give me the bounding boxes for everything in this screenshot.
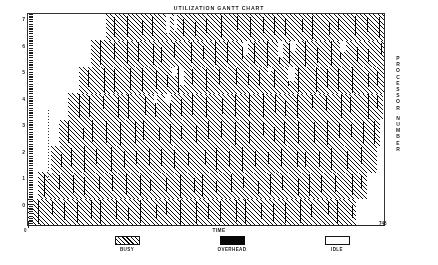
overhead-bar: [92, 120, 93, 142]
overhead-bar: [142, 20, 143, 35]
overhead-bar: [222, 98, 223, 114]
overhead-bar: [120, 122, 121, 145]
overhead-bar: [79, 94, 80, 118]
overhead-bar: [368, 49, 369, 61]
idle-notch: [268, 67, 271, 75]
overhead-bar: [259, 70, 260, 85]
overhead-bar: [352, 205, 353, 219]
legend-swatch-busy: [115, 236, 140, 245]
idle-notch: [154, 93, 157, 103]
chart-title: UTILIZATION GANTT CHART: [0, 5, 438, 11]
busy-block-p2: [51, 146, 377, 173]
idle-notch: [174, 14, 177, 31]
overhead-bar: [91, 200, 92, 218]
overhead-bar: [140, 175, 141, 196]
busy-block-p4: [68, 93, 383, 120]
overhead-bar: [128, 94, 129, 118]
overhead-bar: [368, 73, 369, 87]
overhead-bar: [180, 200, 181, 225]
idle-notch: [290, 40, 296, 51]
overhead-bar: [174, 150, 175, 167]
legend-label: IDLE: [297, 247, 377, 252]
overhead-bar: [150, 179, 151, 191]
overhead-bar: [335, 175, 336, 192]
overhead-bar: [248, 73, 249, 85]
overhead-bar: [250, 17, 251, 37]
overhead-bar: [111, 147, 112, 171]
overhead-bar: [166, 178, 167, 192]
overhead-bar: [118, 97, 119, 117]
overhead-bar: [352, 174, 353, 196]
overhead-bar: [274, 127, 275, 142]
overhead-bar: [135, 121, 136, 144]
overhead-bar: [331, 41, 332, 66]
overhead-bar: [84, 177, 85, 195]
overhead-bar: [44, 175, 45, 197]
overhead-bar: [195, 22, 196, 36]
idle-notch: [165, 93, 171, 103]
overhead-bar: [267, 41, 268, 66]
overhead-bar: [341, 93, 342, 117]
overhead-bar: [352, 67, 353, 92]
overhead-bar: [270, 174, 271, 194]
overhead-bar: [242, 147, 243, 171]
overhead-bar: [337, 200, 338, 223]
plot-area: [28, 14, 384, 225]
overhead-bar: [319, 151, 320, 167]
y-axis-spine: [29, 14, 33, 225]
overhead-bar: [377, 72, 378, 86]
overhead-bar: [311, 204, 312, 217]
overhead-bar: [166, 201, 167, 215]
overhead-bar: [268, 152, 269, 164]
overhead-bar: [374, 121, 375, 144]
overhead-bar: [363, 122, 364, 143]
overhead-bar: [183, 19, 184, 37]
overhead-bar: [219, 69, 220, 85]
overhead-bar: [114, 17, 115, 37]
overhead-bar: [143, 121, 144, 140]
overhead-bar: [326, 96, 327, 110]
y-axis-tick-1: 1: [11, 175, 25, 181]
overhead-bar: [316, 68, 317, 91]
y-axis-label-letter: R: [392, 146, 404, 152]
overhead-bar: [297, 152, 298, 167]
overhead-bar: [156, 71, 157, 89]
overhead-bar: [221, 121, 222, 138]
idle-notch: [340, 40, 346, 52]
overhead-bar: [126, 174, 127, 195]
overhead-bar: [338, 69, 339, 91]
overhead-bar: [100, 200, 101, 223]
overhead-bar: [112, 175, 113, 190]
overhead-bar: [191, 42, 192, 64]
overhead-bar: [38, 201, 39, 224]
y-axis-tick-4: 4: [11, 96, 25, 102]
overhead-bar: [103, 96, 104, 110]
overhead-bar: [68, 121, 69, 143]
overhead-bar: [361, 147, 362, 163]
legend-item-overhead: OVERHEAD: [192, 236, 272, 252]
y-axis-tick-7: 7: [11, 16, 25, 22]
overhead-bar: [83, 128, 84, 140]
legend-swatch-idle: [325, 236, 350, 245]
overhead-bar: [377, 95, 378, 109]
overhead-bar: [152, 16, 153, 36]
overhead-bar: [73, 175, 74, 194]
busy-block-p7: [106, 14, 384, 41]
overhead-bar: [153, 44, 154, 65]
overhead-bar: [216, 148, 217, 170]
chart-legend: BUSYOVERHEADIDLE: [0, 236, 438, 264]
overhead-bar: [236, 68, 237, 85]
overhead-bar: [338, 18, 339, 31]
overhead-bar: [298, 121, 299, 144]
overhead-bar: [181, 99, 182, 116]
overhead-bar: [206, 69, 207, 91]
y-axis-tick-3: 3: [11, 122, 25, 128]
overhead-bar: [243, 176, 244, 188]
overhead-bar: [215, 42, 216, 65]
overhead-bar: [136, 151, 137, 164]
overhead-bar: [138, 42, 139, 61]
idle-notch: [166, 14, 170, 33]
overhead-bar: [285, 100, 286, 116]
overhead-bar: [181, 126, 182, 140]
overhead-bar: [106, 121, 107, 142]
